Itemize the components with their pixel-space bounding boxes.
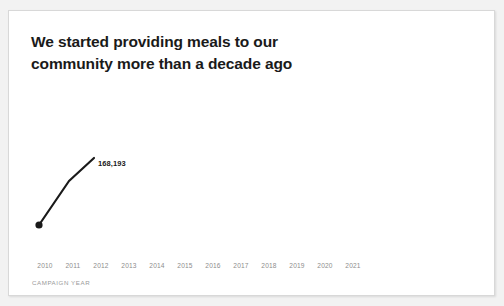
x-tick-2019: 2019 [283,262,311,269]
x-axis-caption: CAMPAIGN YEAR [32,279,90,286]
data-point-marker-2010 [35,221,42,228]
x-tick-2011: 2011 [59,262,87,269]
x-tick-2014: 2014 [143,262,171,269]
data-line-series [39,158,94,225]
x-tick-2015: 2015 [171,262,199,269]
x-tick-2017: 2017 [227,262,255,269]
x-tick-2010: 2010 [31,262,59,269]
x-tick-2020: 2020 [311,262,339,269]
x-tick-2013: 2013 [115,262,143,269]
x-tick-2016: 2016 [199,262,227,269]
chart-card: We started providing meals to our commun… [8,10,495,296]
line-chart-plot-area [9,11,496,297]
x-tick-2021: 2021 [339,262,367,269]
x-axis-tick-labels: 2010 2011 2012 2013 2014 2015 2016 2017 … [31,262,351,274]
data-value-label: 168,193 [98,159,126,168]
x-tick-2012: 2012 [87,262,115,269]
x-tick-2018: 2018 [255,262,283,269]
